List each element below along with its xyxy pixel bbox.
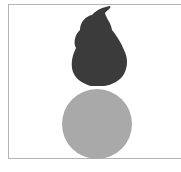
flame-icon — [72, 6, 127, 86]
bomb-ball-icon — [62, 89, 132, 159]
flaming-bomb-icon — [0, 0, 181, 172]
